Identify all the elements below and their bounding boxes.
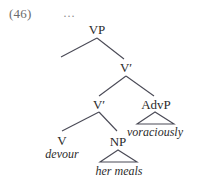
leaf-voraciously: voraciously: [127, 126, 183, 138]
triangle-np: [100, 150, 137, 162]
branch-vbar-lower-left: [62, 112, 99, 131]
branch-vbar-lower-right: [99, 112, 117, 131]
node-advp: AdvP: [141, 98, 171, 111]
branch-vbar-upper-left: [99, 76, 126, 96]
node-np: NP: [110, 135, 127, 148]
branch-vbar-upper-right: [126, 76, 154, 96]
branch-vp-vbar: [97, 38, 124, 59]
node-v-bar-lower: V′: [93, 98, 105, 111]
leaf-her-meals: her meals: [96, 165, 143, 177]
node-vp: VP: [89, 23, 106, 36]
node-v: V: [57, 134, 66, 147]
leaf-devour: devour: [45, 148, 78, 160]
syntax-tree-figure: (46) … VP V′ V′ AdvP V NP devour her mea…: [0, 0, 197, 184]
branch-vp-left: [61, 38, 97, 57]
triangle-advp: [137, 112, 174, 124]
node-v-bar-upper: V′: [120, 61, 132, 74]
